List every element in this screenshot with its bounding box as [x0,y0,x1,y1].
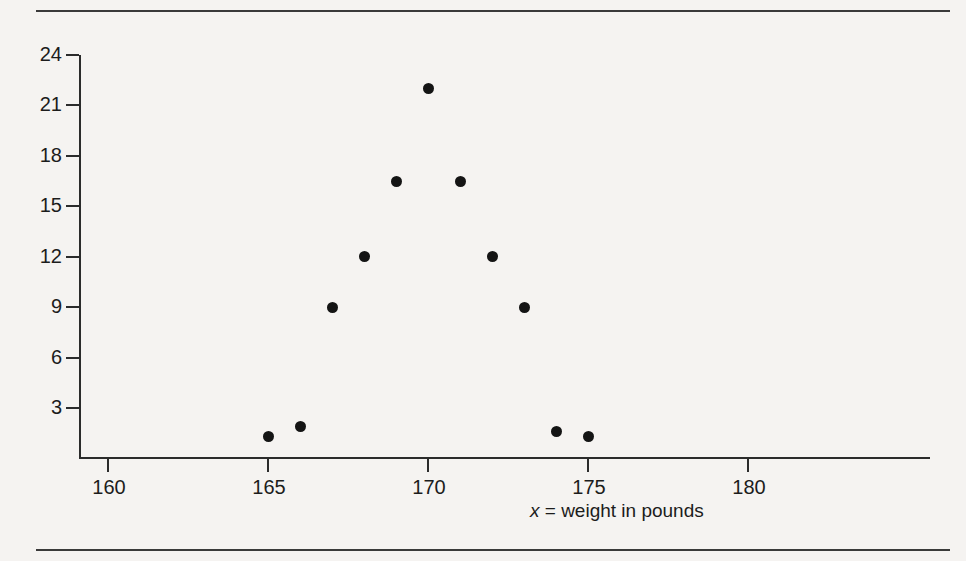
data-point [423,83,434,94]
y-axis-tick-label-text: 6 [22,347,62,367]
x-axis-tick-label: 165 [229,477,309,498]
data-point [359,251,370,262]
y-axis-tick-label: 9 [16,296,62,316]
x-axis-tick [427,459,429,472]
x-axis-tick-label: 160 [69,477,149,498]
y-axis-tick-label: 21 [16,94,62,114]
x-axis-tick-label: 170 [389,477,469,498]
y-axis-tick [66,104,79,106]
data-point [519,302,530,313]
y-axis-tick-label-text: 21 [22,94,62,114]
data-point [391,176,402,187]
y-axis-tick [66,357,79,359]
y-axis-tick [66,306,79,308]
x-axis-label-text: = weight in pounds [540,500,704,521]
x-axis-tick-label-text: 160 [92,476,125,498]
y-axis-tick [66,256,79,258]
y-axis-tick-label-text: 3 [22,397,62,417]
y-axis-tick [66,407,79,409]
x-axis-tick-label-text: 180 [732,476,765,498]
x-axis-tick-label: 175 [549,477,629,498]
y-axis-line [79,55,81,459]
data-point [263,431,274,442]
y-axis-tick-label-text: 9 [22,296,62,316]
y-axis-tick-label: 3 [16,397,62,417]
y-axis-tick-label-text: 18 [22,145,62,165]
x-axis-tick [267,459,269,472]
y-axis-tick-label-text: 24 [22,44,62,64]
x-axis-tick [747,459,749,472]
y-axis-tick-label: 18 [16,145,62,165]
x-axis-label-variable: x [530,500,540,521]
y-axis-tick [66,205,79,207]
x-axis-tick-label: 180 [709,477,789,498]
data-point [295,421,306,432]
data-point [487,251,498,262]
x-axis-label: x = weight in pounds [530,500,704,522]
x-axis-line [79,457,930,459]
y-axis-tick-label: 24 [16,44,62,64]
y-axis-tick-label: 6 [16,347,62,367]
scatter-plot: 3691215182124 160165170175180 x = weight… [0,0,966,561]
x-axis-tick [587,459,589,472]
y-axis-tick-label-text: 15 [22,195,62,215]
y-axis-tick-label-text: 12 [22,246,62,266]
x-axis-tick-label-text: 175 [572,476,605,498]
y-axis-tick [66,54,79,56]
x-axis-tick-label-text: 170 [412,476,445,498]
y-axis-tick [66,155,79,157]
y-axis-tick-label: 12 [16,246,62,266]
data-point [327,302,338,313]
data-point [455,176,466,187]
figure-container: 3691215182124 160165170175180 x = weight… [0,0,966,561]
x-axis-tick-label-text: 165 [252,476,285,498]
x-axis-tick [107,459,109,472]
data-point [551,426,562,437]
y-axis-tick-label: 15 [16,195,62,215]
data-point [583,431,594,442]
